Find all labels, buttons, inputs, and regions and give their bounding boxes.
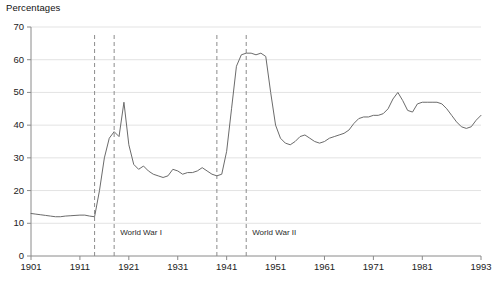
y-axis-tick-label: 60 bbox=[2, 55, 24, 65]
x-axis-tick-label: 1941 bbox=[207, 262, 247, 272]
x-axis-tick-label: 1981 bbox=[402, 262, 442, 272]
y-axis-tick-label: 50 bbox=[2, 87, 24, 97]
x-axis-tick-label: 1901 bbox=[11, 262, 51, 272]
y-axis-tick-label: 20 bbox=[2, 186, 24, 196]
x-axis-tick-label: 1971 bbox=[353, 262, 393, 272]
y-axis-tick-label: 10 bbox=[2, 218, 24, 228]
x-axis-tick-label: 1931 bbox=[158, 262, 198, 272]
x-axis-tick-label: 1911 bbox=[60, 262, 100, 272]
y-axis-tick-label: 0 bbox=[2, 251, 24, 261]
y-axis-tick-label: 70 bbox=[2, 22, 24, 32]
data-series-line bbox=[31, 53, 481, 217]
x-axis-tick-label: 1921 bbox=[109, 262, 149, 272]
war-period-label: World War I bbox=[120, 228, 162, 237]
y-axis-tick-label: 40 bbox=[2, 120, 24, 130]
x-axis-tick-label: 1993 bbox=[461, 262, 496, 272]
y-axis-tick-label: 30 bbox=[2, 153, 24, 163]
x-axis-tick-label: 1961 bbox=[304, 262, 344, 272]
war-period-label: World War II bbox=[252, 228, 296, 237]
x-axis-tick-label: 1951 bbox=[256, 262, 296, 272]
